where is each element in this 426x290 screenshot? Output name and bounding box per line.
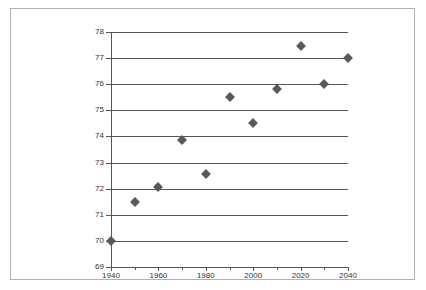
y-tick-label-77: 77 xyxy=(95,54,104,62)
y-tick-label-78: 78 xyxy=(95,28,104,36)
y-tick-73 xyxy=(106,163,111,164)
y-tick-label-73: 73 xyxy=(95,159,104,167)
gridline-y-70 xyxy=(111,241,348,242)
x-tick-label-2020: 2020 xyxy=(292,272,310,280)
y-tick-label-70: 70 xyxy=(95,237,104,245)
y-tick-label-71: 71 xyxy=(95,211,104,219)
y-tick-label-75: 75 xyxy=(95,106,104,114)
data-point xyxy=(130,197,140,207)
y-tick-78 xyxy=(106,32,111,33)
x-tick-1950 xyxy=(135,267,136,270)
chart-figure: 69707172737475767778 1940196019802000202… xyxy=(0,0,426,290)
data-point xyxy=(225,92,235,102)
x-tick-1970 xyxy=(182,267,183,270)
data-point xyxy=(296,41,306,51)
y-tick-label-76: 76 xyxy=(95,80,104,88)
y-tick-label-72: 72 xyxy=(95,185,104,193)
y-tick-75 xyxy=(106,110,111,111)
y-tick-71 xyxy=(106,215,111,216)
gridline-y-78 xyxy=(111,32,348,33)
data-point xyxy=(248,118,258,128)
data-point xyxy=(201,169,211,179)
data-point xyxy=(153,182,163,192)
chart-frame: 69707172737475767778 1940196019802000202… xyxy=(10,8,415,280)
data-point xyxy=(343,53,353,63)
y-tick-74 xyxy=(106,136,111,137)
x-tick-2030 xyxy=(324,267,325,270)
gridline-y-76 xyxy=(111,84,348,85)
data-point xyxy=(319,79,329,89)
x-tick-label-2040: 2040 xyxy=(339,272,357,280)
data-point xyxy=(106,236,116,246)
plot-area: 69707172737475767778 1940196019802000202… xyxy=(111,32,348,267)
y-axis-line xyxy=(111,32,112,267)
y-tick-label-74: 74 xyxy=(95,132,104,140)
y-tick-label-69: 69 xyxy=(95,263,104,271)
x-tick-label-2000: 2000 xyxy=(244,272,262,280)
x-tick-label-1940: 1940 xyxy=(102,272,120,280)
gridline-y-74 xyxy=(111,136,348,137)
x-tick-label-1980: 1980 xyxy=(197,272,215,280)
x-tick-label-1960: 1960 xyxy=(149,272,167,280)
gridline-y-72 xyxy=(111,189,348,190)
y-tick-76 xyxy=(106,84,111,85)
gridline-y-73 xyxy=(111,163,348,164)
gridline-y-75 xyxy=(111,110,348,111)
x-tick-2010 xyxy=(277,267,278,270)
gridline-y-77 xyxy=(111,58,348,59)
y-tick-77 xyxy=(106,58,111,59)
gridline-y-71 xyxy=(111,215,348,216)
x-tick-1990 xyxy=(230,267,231,270)
y-tick-72 xyxy=(106,189,111,190)
